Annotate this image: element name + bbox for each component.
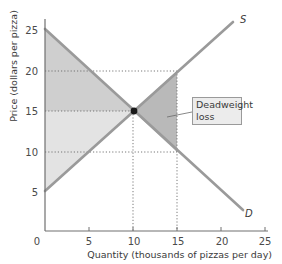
y-tick-20: 20 [25, 66, 38, 77]
dwl-label-line1: Deadweight [196, 99, 238, 111]
x-tick-25: 25 [259, 236, 272, 247]
x-tick-15: 15 [172, 236, 185, 247]
y-tick-25: 25 [25, 25, 38, 36]
y-tick-15: 15 [25, 106, 38, 117]
demand-label: D [245, 208, 253, 219]
deadweight-loss-label: Deadweight loss [192, 97, 242, 125]
welfare-chart: 25 20 15 10 5 0 5 10 15 20 25 Quantity (… [0, 0, 282, 264]
x-tick-20: 20 [216, 236, 229, 247]
dwl-label-line2: loss [196, 111, 238, 123]
deadweight-loss-area [133, 71, 177, 152]
supply-label: S [240, 14, 247, 25]
y-axis-title: Price (dollars per pizza) [8, 10, 19, 122]
equilibrium-point [131, 108, 138, 115]
x-axis-title: Quantity (thousands of pizzas per day) [87, 249, 272, 260]
origin-label: 0 [34, 236, 40, 247]
x-tick-5: 5 [86, 236, 92, 247]
y-tick-5: 5 [32, 187, 38, 198]
y-tick-10: 10 [25, 147, 38, 158]
x-tick-10: 10 [128, 236, 141, 247]
